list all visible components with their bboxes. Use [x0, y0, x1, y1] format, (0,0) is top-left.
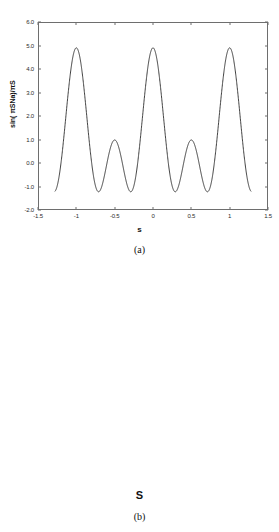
y-tick-mark	[265, 116, 268, 117]
y-tick-mark	[38, 69, 41, 70]
x-tick-mark	[268, 22, 269, 25]
curve-path	[55, 48, 251, 192]
y-tick-label: 4.0	[26, 66, 34, 72]
y-tick-mark	[265, 163, 268, 164]
x-tick-label: 0	[151, 213, 154, 219]
y-tick-mark	[38, 139, 41, 140]
y-tick-label: -1.0	[24, 184, 34, 190]
x-tick-label: -0.5	[110, 213, 120, 219]
figure-a: sin( πSNa)/πS -2.0-1.00.01.02.03.04.05.0…	[0, 0, 279, 266]
x-tick-label: -1	[74, 213, 79, 219]
y-tick-label: 0.0	[26, 160, 34, 166]
figure-caption-a: (a)	[0, 244, 279, 255]
x-tick-mark	[191, 207, 192, 210]
x-tick-mark	[153, 22, 154, 25]
data-curve-a	[38, 22, 268, 210]
x-tick-mark	[114, 22, 115, 25]
plot-area-a: -2.0-1.00.01.02.03.04.05.06.0 -1.5-1-0.5…	[38, 22, 268, 210]
x-tick-mark	[38, 207, 39, 210]
x-tick-label: -1.5	[33, 213, 43, 219]
y-tick-mark	[38, 92, 41, 93]
x-tick-label: 1	[228, 213, 231, 219]
y-tick-mark	[38, 116, 41, 117]
y-tick-label: 3.0	[26, 90, 34, 96]
x-tick-mark	[268, 207, 269, 210]
y-tick-mark	[265, 186, 268, 187]
x-tick-label: 1.5	[264, 213, 272, 219]
y-tick-mark	[265, 92, 268, 93]
y-tick-mark	[38, 45, 41, 46]
x-tick-mark	[229, 22, 230, 25]
y-tick-mark	[265, 45, 268, 46]
x-tick-mark	[153, 207, 154, 210]
y-tick-mark	[265, 139, 268, 140]
figure-caption-b: (b)	[0, 511, 279, 522]
y-tick-label: 5.0	[26, 43, 34, 49]
x-axis-label-a: s	[0, 225, 279, 234]
x-tick-mark	[38, 22, 39, 25]
y-tick-label: 1.0	[26, 137, 34, 143]
y-tick-label: 2.0	[26, 113, 34, 119]
x-tick-mark	[76, 207, 77, 210]
x-tick-mark	[229, 207, 230, 210]
x-tick-mark	[76, 22, 77, 25]
x-axis-label-b: S	[0, 489, 279, 501]
y-tick-mark	[38, 186, 41, 187]
y-tick-mark	[265, 69, 268, 70]
x-tick-mark	[114, 207, 115, 210]
x-tick-mark	[191, 22, 192, 25]
x-tick-label: 0.5	[187, 213, 195, 219]
figure-b: -4.0-2.00.02.04.06.08.010.0 -1.5-1-0.500…	[0, 266, 279, 532]
y-tick-mark	[38, 163, 41, 164]
y-axis-label-a: sin( πSNa)/πS	[9, 80, 16, 128]
y-tick-label: 6.0	[26, 19, 34, 25]
